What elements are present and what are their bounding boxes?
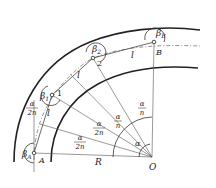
- beta-2-label: β2: [91, 44, 101, 55]
- fraction-alpha-2n-left: α 2n: [26, 100, 38, 117]
- segment-l-label-3: l: [47, 108, 50, 118]
- point-1-marker: [50, 93, 54, 97]
- point-2-label: 2: [97, 59, 102, 68]
- point-1-label: 1: [57, 89, 62, 98]
- alpha-label: α: [135, 139, 141, 148]
- segment-l-label-1: l: [77, 70, 80, 80]
- svg-text:α: α: [116, 113, 121, 121]
- svg-text:α: α: [97, 120, 102, 128]
- fraction-alpha-2n-upper: α 2n: [93, 120, 105, 137]
- point-A-label: A: [38, 156, 45, 165]
- point-2-marker: [91, 56, 95, 60]
- inner-boundary-arc: [51, 67, 198, 162]
- fraction-alpha-n-right: α n: [138, 100, 146, 117]
- point-O-label: O: [149, 162, 157, 172]
- beta-B-label: βB: [155, 28, 166, 39]
- point-B-marker: [152, 40, 156, 44]
- svg-text:α: α: [140, 100, 145, 108]
- fraction-alpha-n-left: α n: [114, 113, 122, 130]
- point-B-label: B: [155, 48, 162, 57]
- svg-text:n: n: [140, 109, 145, 117]
- center-dashed-line: [34, 46, 200, 160]
- geometry-diagram: βA β1 β2 βB A 1 2 B O l l l R α α 2n α 2…: [0, 0, 216, 188]
- svg-text:2n: 2n: [94, 129, 104, 137]
- fraction-alpha-2n-lower: α 2n: [74, 134, 86, 151]
- svg-text:α: α: [30, 100, 35, 108]
- svg-text:2n: 2n: [27, 109, 37, 117]
- diagram-canvas: βA β1 β2 βB A 1 2 B O l l l R α α 2n α 2…: [0, 0, 216, 188]
- svg-text:2n: 2n: [75, 143, 85, 151]
- segment-l-label-2: l: [131, 50, 134, 60]
- beta-1-label: β1: [39, 91, 49, 102]
- svg-text:n: n: [116, 122, 121, 130]
- radius-R-label: R: [94, 157, 102, 167]
- svg-text:α: α: [78, 134, 83, 142]
- beta-A-label: βA: [21, 149, 32, 160]
- point-A-marker: [32, 151, 36, 155]
